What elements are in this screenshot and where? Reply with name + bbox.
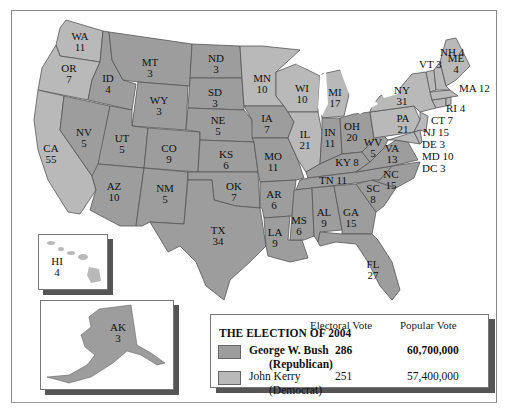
label-id-ev: 4 [105, 83, 111, 95]
alaska-map: AK 3 [41, 301, 173, 389]
label-ia-ev: 7 [264, 123, 270, 135]
label-ny-ev: 31 [397, 95, 408, 107]
legend-col-popular: Popular Vote [400, 319, 457, 331]
label-ga-ev: 15 [346, 217, 358, 229]
candidate-bush-name: George W. Bush [249, 344, 329, 357]
label-ri: RI 4 [446, 102, 466, 114]
bush-electoral-vote: 286 [335, 344, 352, 356]
election-legend: THE ELECTION OF 2004 Electoral Vote Popu… [210, 314, 489, 388]
label-wi-ev: 10 [297, 93, 309, 105]
label-ca-ev: 55 [46, 153, 58, 165]
label-nh: NH 4 [440, 46, 465, 58]
label-wv-ev: 5 [370, 147, 376, 159]
alaska-inset: AK 3 [40, 300, 174, 390]
label-ky: KY 8 [335, 156, 359, 168]
label-de: DE 3 [422, 138, 445, 150]
label-va-ev: 13 [387, 153, 399, 165]
label-ok-ev: 7 [231, 191, 237, 203]
swatch-democrat [218, 371, 241, 385]
label-pa-ev: 21 [398, 123, 409, 135]
label-ct: CT 7 [431, 114, 454, 126]
hawaii-map: HI 4 [39, 235, 107, 289]
label-nv-ev: 5 [81, 137, 87, 149]
kerry-popular-vote: 57,400,000 [407, 370, 459, 382]
label-ak-ev: 3 [115, 332, 121, 344]
label-nd-ev: 3 [213, 63, 219, 75]
label-ks-ev: 6 [223, 159, 229, 171]
state-fl [318, 232, 400, 300]
candidate-kerry-name: John Kerry [249, 370, 300, 383]
label-nj: NJ 15 [423, 126, 449, 138]
label-sc-ev: 8 [370, 193, 376, 205]
label-ma: MA 12 [459, 82, 490, 94]
label-ar-ev: 6 [271, 199, 277, 211]
label-vt: VT 3 [419, 58, 442, 70]
label-nc-ev: 15 [386, 179, 398, 191]
label-or-ev: 7 [66, 73, 72, 85]
label-nm-ev: 5 [162, 193, 168, 205]
label-mo-ev: 11 [268, 161, 279, 173]
label-az-ev: 10 [109, 191, 121, 203]
label-mi-ev: 17 [330, 97, 342, 109]
candidate-bush-party: (Republican) [269, 358, 333, 370]
hawaii-inset: HI 4 [38, 234, 108, 290]
bush-popular-vote: 60,700,000 [407, 344, 459, 356]
label-wa-ev: 11 [75, 41, 86, 53]
label-mt-ev: 3 [147, 67, 153, 79]
label-mn-ev: 10 [257, 83, 269, 95]
label-ne-ev: 5 [215, 125, 221, 137]
label-in-ev: 11 [325, 137, 336, 149]
label-ut-ev: 5 [119, 143, 125, 155]
candidate-kerry-party: (Democrat) [269, 384, 322, 396]
label-co-ev: 9 [166, 153, 172, 165]
label-il-ev: 21 [300, 139, 311, 151]
label-me-ev: 4 [453, 63, 459, 75]
label-la-ev: 9 [272, 237, 278, 249]
label-fl-ev: 27 [368, 269, 380, 281]
legend-col-electoral: Electoral Vote [310, 319, 372, 331]
label-oh-ev: 20 [347, 131, 359, 143]
label-wy-ev: 3 [156, 105, 162, 117]
label-ms-ev: 6 [296, 225, 302, 237]
kerry-electoral-vote: 251 [335, 370, 352, 382]
label-tn: TN 11 [319, 174, 347, 186]
state-ma [430, 90, 458, 100]
label-dc: DC 3 [422, 162, 446, 174]
label-al-ev: 9 [321, 217, 327, 229]
label-hi-ev: 4 [54, 266, 60, 278]
label-md: MD 10 [422, 150, 454, 162]
swatch-republican [218, 345, 241, 359]
lake-superior [296, 52, 346, 70]
label-sd-ev: 3 [212, 97, 218, 109]
label-tx-ev: 34 [213, 235, 225, 247]
